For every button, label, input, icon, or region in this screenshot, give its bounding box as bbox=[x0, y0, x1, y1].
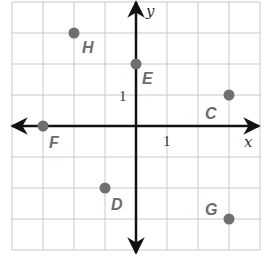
point-label-h: H bbox=[82, 39, 94, 56]
point-label-g: G bbox=[205, 201, 217, 218]
point-g bbox=[224, 214, 235, 225]
x-tick-label-1: 1 bbox=[163, 133, 171, 149]
y-tick-label-1: 1 bbox=[119, 88, 127, 104]
point-label-e: E bbox=[142, 70, 154, 87]
point-label-c: C bbox=[205, 105, 217, 122]
y-axis-label: y bbox=[145, 2, 155, 20]
point-d bbox=[100, 183, 111, 194]
point-h bbox=[69, 28, 80, 39]
point-f bbox=[38, 121, 49, 132]
point-label-d: D bbox=[111, 196, 123, 213]
x-axis-label: x bbox=[244, 133, 253, 151]
point-e bbox=[131, 59, 142, 70]
coordinate-plane: x y 1 1 HECFDG bbox=[0, 0, 270, 275]
point-c bbox=[224, 90, 235, 101]
point-label-f: F bbox=[49, 134, 60, 151]
